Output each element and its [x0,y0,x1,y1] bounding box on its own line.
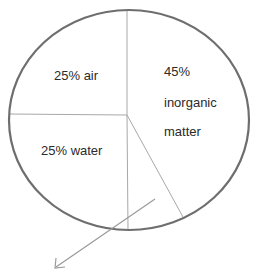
arrow-icon [55,199,155,268]
label-inorganic-pct: 45% [164,65,190,78]
pie-chart [0,0,256,274]
pie-outline [9,10,249,230]
divider-horizontal [9,114,127,115]
label-inorganic-line2: matter [164,125,201,138]
label-air: 25% air [54,69,98,82]
label-inorganic-line1: inorganic [164,96,217,109]
label-water: 25% water [41,144,102,157]
divider-vertical-bottom [127,115,128,230]
